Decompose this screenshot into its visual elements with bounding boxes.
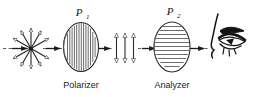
analyzer-disc [154,22,190,72]
starburst-center [29,47,33,51]
p1-label-subscript: 1 [86,13,90,21]
nose-profile-icon [211,14,218,58]
p2-label-base: P [166,5,174,17]
optics-figure: P 1 Polarizer [0,0,254,97]
analyzer-outline [154,22,190,72]
eyebrow-icon [220,27,244,33]
polarizer-axis-label: P 1 [75,6,90,21]
analyzer-axis-label: P 2 [166,5,181,20]
p1-label-base: P [75,6,83,18]
polarizer-disc [64,23,99,72]
polarizer-caption: Polarizer [63,80,99,90]
vertically-polarized-beam [117,34,134,63]
observer-eye [211,14,245,58]
analyzer-caption: Analyzer [154,80,189,90]
figure-canvas: P 1 Polarizer [0,0,254,97]
p2-label-subscript: 2 [177,12,181,20]
